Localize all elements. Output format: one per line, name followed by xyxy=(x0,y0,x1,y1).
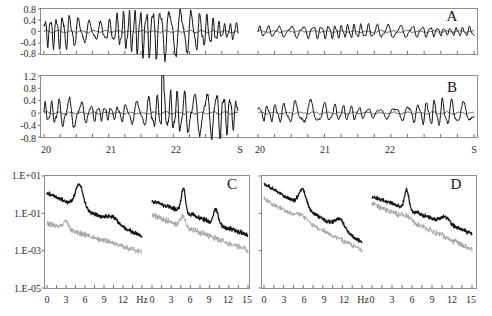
panel-b-frame xyxy=(41,76,478,138)
panel-c-ytick-2: 1.E-03 xyxy=(14,245,41,256)
panel-b-left-raw-trace xyxy=(44,76,238,140)
freq-axis-c-label-0: 0 xyxy=(45,294,50,305)
freq-axis-d-label-6: 0 xyxy=(370,294,375,305)
freq-axis-c-label-7: 3 xyxy=(169,294,174,305)
panel-c-ytick-1: 1.E-01 xyxy=(14,208,41,219)
panel-b-ytick-4: -0.4 xyxy=(20,120,36,131)
freq-axis-c-label-4: 12 xyxy=(118,294,128,305)
panel-a-ytick-3: -0.4 xyxy=(20,37,36,48)
panel-a-ytick-2: 0 xyxy=(31,26,36,37)
time-axis-label-1: 21 xyxy=(106,144,116,155)
time-axis-label-4: 20 xyxy=(255,144,265,155)
panel-d-xticks xyxy=(264,285,472,288)
freq-axis-c-label-2: 6 xyxy=(83,294,88,305)
freq-axis-d-label-7: 3 xyxy=(390,294,395,305)
freq-axis-c-label-10: 12 xyxy=(223,294,233,305)
freq-axis-c-label-3: 9 xyxy=(102,294,107,305)
panel-b: 1.2 0.8 0.4 0 -0.4 -0.8 B xyxy=(20,71,477,144)
freq-axis-labels-c: 036912Hz03691215 xyxy=(45,294,253,305)
panel-d-left-upper-spectrum xyxy=(264,183,362,243)
freq-axis-c-label-8: 6 xyxy=(188,294,193,305)
panel-a-ytick-0: 0.8 xyxy=(24,4,37,15)
freq-axis-d-label-0: 0 xyxy=(262,294,267,305)
panel-b-letter: B xyxy=(447,79,457,95)
freq-axis-d-label-11: 15 xyxy=(466,294,476,305)
freq-axis-labels-d: 036912Hz03691215 xyxy=(262,294,477,305)
panel-c-xticks xyxy=(47,285,248,288)
time-axis-label-0: 20 xyxy=(41,144,51,155)
panel-b-ytick-5: -0.8 xyxy=(20,133,36,144)
panel-b-ytick-2: 0.4 xyxy=(24,95,37,106)
panel-c-traces xyxy=(47,184,248,254)
figure-root: 0.8 0.4 0 -0.4 -0.8 A 1.2 0.8 0.4 0 -0.4… xyxy=(0,0,492,316)
freq-axis-c-label-6: 0 xyxy=(150,294,155,305)
panel-b-traces xyxy=(44,76,474,140)
panel-b-xticks xyxy=(44,134,474,137)
panel-d: D xyxy=(259,176,477,289)
panel-a-ytick-4: -0.8 xyxy=(20,48,36,59)
panel-b-ytick-labels: 1.2 0.8 0.4 0 -0.4 -0.8 xyxy=(20,71,36,144)
freq-axis-c-label-9: 9 xyxy=(207,294,212,305)
freq-axis-d-label-1: 3 xyxy=(282,294,287,305)
panel-d-traces xyxy=(264,183,472,252)
panel-b-ytick-0: 1.2 xyxy=(24,71,37,82)
time-axis-label-5: 21 xyxy=(320,144,330,155)
freq-axis-d-label-2: 6 xyxy=(302,294,307,305)
panel-c-left-upper-spectrum xyxy=(47,184,142,238)
freq-axis-c-label-5: Hz xyxy=(136,294,148,305)
freq-axis-d-label-5: Hz xyxy=(357,294,369,305)
freq-axis-d-label-8: 6 xyxy=(410,294,415,305)
panel-c-ytick-labels: 1.E+01 1.E-01 1.E-03 1.E-05 xyxy=(12,170,41,294)
time-axis-label-3: S xyxy=(237,144,243,155)
freq-axis-c-label-11: 15 xyxy=(242,294,252,305)
panel-a-letter: A xyxy=(447,8,458,24)
time-axis-labels: 202122S202122S xyxy=(41,144,477,155)
panel-a-xticks xyxy=(44,51,474,54)
panel-c-ytick-0: 1.E+01 xyxy=(12,170,41,181)
time-axis-label-6: 22 xyxy=(385,144,395,155)
panel-b-ytick-3: 0 xyxy=(31,108,36,119)
freq-axis-d-label-3: 9 xyxy=(322,294,327,305)
panel-d-left-lower-spectrum xyxy=(264,196,362,252)
freq-axis-d-label-10: 12 xyxy=(447,294,457,305)
freq-axis-c-label-1: 3 xyxy=(64,294,69,305)
panel-d-letter: D xyxy=(451,176,462,192)
panel-a-right-baseline-trace xyxy=(258,30,474,33)
panel-d-frame xyxy=(262,176,477,289)
panel-c-letter: C xyxy=(227,176,237,192)
panel-c-right-upper-spectrum xyxy=(152,188,248,236)
panel-b-right-baseline-trace xyxy=(258,112,474,115)
time-axis-label-2: 22 xyxy=(171,144,181,155)
panel-a-ytick-1: 0.4 xyxy=(24,15,37,26)
panel-c-left-lower-spectrum xyxy=(47,220,142,254)
time-axis-label-7: S xyxy=(471,144,477,155)
freq-axis-d-label-4: 12 xyxy=(339,294,349,305)
panel-c-ytick-3: 1.E-05 xyxy=(14,283,41,294)
panel-b-ytick-1: 0.8 xyxy=(24,83,37,94)
panel-c: 1.E+01 1.E-01 1.E-03 1.E-05 C xyxy=(12,170,250,294)
panel-a-right-raw-trace xyxy=(258,24,474,40)
panel-a: 0.8 0.4 0 -0.4 -0.8 A xyxy=(20,4,477,62)
freq-axis-d-label-9: 9 xyxy=(430,294,435,305)
panel-a-ytick-labels: 0.8 0.4 0 -0.4 -0.8 xyxy=(20,4,36,59)
